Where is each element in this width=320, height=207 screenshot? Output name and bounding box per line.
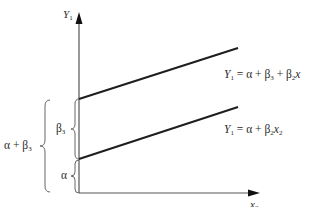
regression-diagram: [0, 0, 320, 207]
beta3-brace-label: β3: [56, 123, 65, 136]
alpha-plus-beta3-brace: [40, 100, 50, 192]
y-axis-arrow-icon: [76, 12, 83, 24]
x-axis-arrow-icon: [248, 190, 260, 197]
upper-regression-line: [79, 48, 238, 99]
x-axis-label: x2: [250, 199, 258, 207]
alpha-plus-beta3-brace-label: α + β3: [4, 140, 32, 153]
lower-regression-line: [79, 107, 238, 159]
alpha-brace: [71, 160, 79, 193]
lower-line-equation: Y1 = α + β2x2: [224, 124, 282, 137]
y-axis-label: Y1: [63, 9, 73, 22]
alpha-brace-label: α: [61, 170, 67, 182]
beta3-brace: [71, 99, 79, 159]
upper-line-equation: Y1 = α + β3 + β2x: [224, 69, 300, 82]
